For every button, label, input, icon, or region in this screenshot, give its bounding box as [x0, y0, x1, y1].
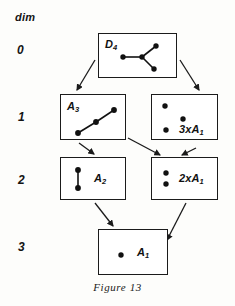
- node-label-d4: D4: [105, 38, 117, 50]
- node-box-2a1[interactable]: 2xA1: [151, 157, 218, 200]
- dynkin-diagram-a2: [70, 165, 92, 197]
- arrow-a3-to-a2: [79, 143, 94, 154]
- arrow-d4-to-a3: [77, 60, 95, 90]
- node-box-a1[interactable]: A1: [98, 229, 168, 275]
- node-label-2a1: 2xA1: [179, 172, 204, 184]
- dim-level-0: 0: [17, 43, 24, 57]
- dynkin-diagram-3a1: [157, 101, 205, 139]
- figure-13-diagram: dim 0 1 2 3 D4: [0, 0, 235, 306]
- arrow-3a1-to-2a1: [182, 148, 196, 155]
- node-box-a2[interactable]: A2: [60, 157, 126, 200]
- dynkin-diagram-d4: [117, 42, 163, 74]
- dynkin-diagram-2a1: [158, 169, 178, 195]
- node-label-a2: A2: [94, 172, 106, 184]
- node-box-d4[interactable]: D4: [98, 33, 177, 78]
- dim-level-2: 2: [18, 173, 25, 187]
- figure-caption: Figure 13: [0, 281, 235, 293]
- dim-level-1: 1: [18, 110, 25, 124]
- dynkin-diagram-a3: [71, 105, 121, 139]
- arrow-a2-to-a1: [95, 203, 113, 226]
- arrow-d4-to-3a1: [180, 60, 199, 90]
- arrow-a3-to-2a1: [128, 138, 160, 155]
- dim-level-3: 3: [18, 240, 25, 254]
- node-box-a3[interactable]: A3: [60, 94, 126, 140]
- dynkin-diagram-a1: [116, 250, 130, 264]
- arrow-2a1-to-a1: [167, 203, 186, 240]
- axis-title-dim: dim: [15, 11, 35, 23]
- node-label-a1: A1: [137, 246, 149, 258]
- node-box-3a1[interactable]: 3xA1: [151, 94, 218, 140]
